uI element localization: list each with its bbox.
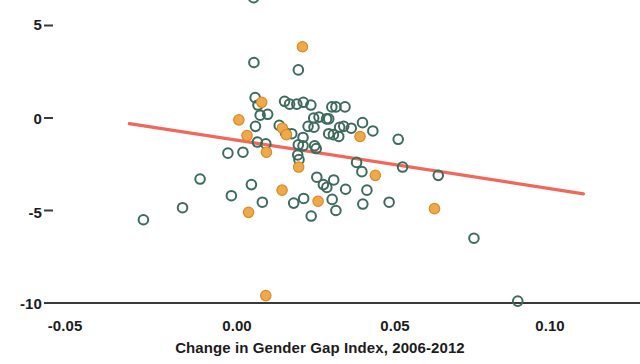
data-point-open	[178, 203, 188, 213]
data-point-open	[384, 197, 394, 207]
data-point-filled	[297, 42, 307, 52]
data-point-open	[299, 194, 309, 204]
data-point-open	[238, 147, 248, 157]
data-point-open	[513, 296, 523, 306]
data-point-open	[249, 0, 259, 3]
data-point-open	[249, 58, 259, 68]
data-point-filled	[261, 290, 271, 300]
scatter-plot-figure: 5 0 -5 -10 -0.05 0.00 0.05 0.10 Change i…	[0, 0, 640, 364]
data-point-open	[294, 65, 304, 75]
data-point-open	[309, 122, 319, 132]
data-point-open	[306, 211, 316, 221]
data-point-filled	[243, 207, 253, 217]
data-point-open	[289, 198, 299, 208]
ytick-label-0: 0	[0, 111, 42, 126]
data-point-filled	[313, 196, 323, 206]
data-point-filled	[257, 97, 267, 107]
data-point-open	[358, 199, 368, 209]
data-point-filled	[261, 147, 271, 157]
data-point-open	[368, 126, 378, 136]
data-point-open	[358, 118, 368, 128]
xtick-label-005: 0.05	[380, 318, 410, 333]
data-points	[139, 0, 523, 306]
data-point-open	[223, 148, 233, 158]
data-point-open	[247, 180, 257, 190]
xtick-label-000: 0.00	[222, 318, 252, 333]
data-point-open	[362, 185, 372, 195]
data-point-open	[341, 184, 351, 194]
data-point-open	[331, 206, 341, 216]
data-point-open	[227, 191, 237, 201]
data-point-filled	[370, 170, 380, 180]
data-point-open	[258, 197, 268, 207]
data-point-open	[469, 233, 479, 243]
data-point-filled	[242, 130, 252, 140]
data-point-filled	[293, 162, 303, 172]
data-point-open	[139, 215, 149, 225]
data-point-filled	[234, 115, 244, 125]
ytick-label-minus10: -10	[0, 296, 42, 311]
ytick-label-minus5: -5	[0, 205, 42, 220]
xtick-label-010: 0.10	[535, 318, 565, 333]
ytick-label-5: 5	[0, 17, 42, 32]
data-point-open	[393, 134, 403, 144]
xtick-label-minus005: -0.05	[48, 318, 83, 333]
data-point-open	[195, 174, 205, 184]
data-point-filled	[355, 131, 365, 141]
plot-canvas	[0, 0, 640, 364]
data-point-filled	[277, 185, 287, 195]
axis-lines	[44, 26, 640, 304]
data-point-open	[251, 122, 261, 132]
data-point-open	[327, 195, 337, 205]
data-point-open	[357, 167, 367, 177]
x-axis-title: Change in Gender Gap Index, 2006-2012	[175, 340, 465, 355]
data-point-filled	[429, 203, 439, 213]
data-point-filled	[281, 129, 291, 139]
